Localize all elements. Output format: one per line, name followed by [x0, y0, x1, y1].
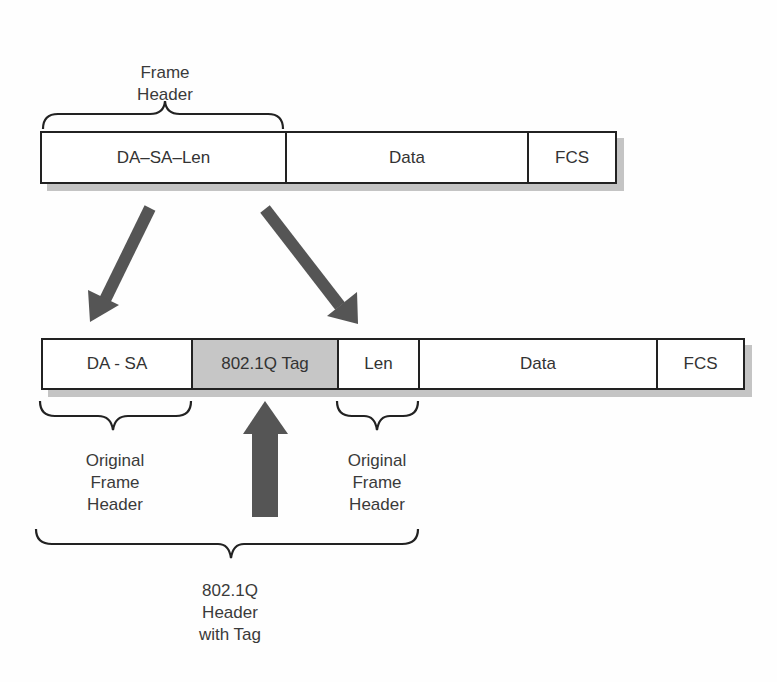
frame-header-brace [43, 101, 283, 129]
label-line: 802.1Q [170, 580, 290, 602]
field-fcs: FCS [658, 340, 743, 388]
left-original-header-brace [40, 401, 191, 430]
label-line: Header [170, 602, 290, 624]
label-line: Original [55, 450, 175, 472]
label-line: with Tag [170, 624, 290, 646]
field-data: Data [287, 133, 529, 182]
label-line: Original [317, 450, 437, 472]
original-frame: DA–SA–Len Data FCS [40, 131, 617, 184]
field-fcs: FCS [529, 133, 615, 182]
label-line: Frame [55, 472, 175, 494]
tagged-header-label: 802.1Q Header with Tag [170, 580, 290, 646]
right-original-header-label: Original Frame Header [317, 450, 437, 516]
field-data: Data [420, 340, 658, 388]
label-line: Frame [317, 472, 437, 494]
label-line: Header [317, 494, 437, 516]
field-len: Len [339, 340, 420, 388]
field-da-sa-len: DA–SA–Len [42, 133, 287, 182]
field-8021q-tag: 802.1Q Tag [193, 340, 339, 388]
tagged-frame: DA - SA 802.1Q Tag Len Data FCS [41, 338, 745, 390]
field-da-sa: DA - SA [43, 340, 193, 388]
arrow-left-down-icon [88, 208, 150, 322]
arrow-up-icon [243, 401, 288, 517]
label-line: Header [55, 494, 175, 516]
right-original-header-brace [337, 401, 418, 430]
left-original-header-label: Original Frame Header [55, 450, 175, 516]
tagged-header-brace [36, 529, 418, 558]
arrow-right-down-icon [265, 209, 358, 324]
